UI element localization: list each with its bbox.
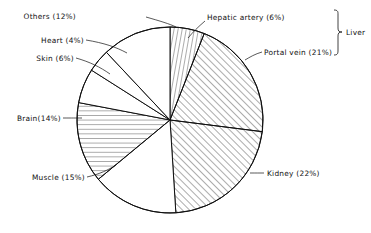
label-liver-bracket: Liver — [346, 28, 366, 37]
pie-slice-group: Hepatic artery (6%)Portal vein (21%)Kidn… — [77, 27, 263, 213]
label-hepatic-artery: Hepatic artery (6%) — [207, 13, 285, 22]
pie-chart-svg: Hepatic artery (6%)Portal vein (21%)Kidn… — [0, 0, 371, 233]
label-brain: Brain(14%) — [17, 114, 61, 123]
label-others: Others (12%) — [24, 12, 76, 21]
label-kidney: Kidney (22%) — [267, 169, 320, 178]
label-portal-vein: Portal vein (21%) — [264, 48, 332, 57]
liver-bracket — [334, 10, 342, 55]
label-heart: Heart (4%) — [41, 36, 84, 45]
leader-line-others — [146, 17, 176, 27]
leader-line-portal-vein — [245, 52, 262, 60]
label-skin: Skin (6%) — [36, 54, 74, 63]
pie-slice-fill-kidney — [170, 120, 262, 213]
label-muscle: Muscle (15%) — [32, 173, 85, 182]
liver-bracket-group — [334, 10, 342, 55]
pie-chart-figure: Hepatic artery (6%)Portal vein (21%)Kidn… — [0, 0, 371, 233]
